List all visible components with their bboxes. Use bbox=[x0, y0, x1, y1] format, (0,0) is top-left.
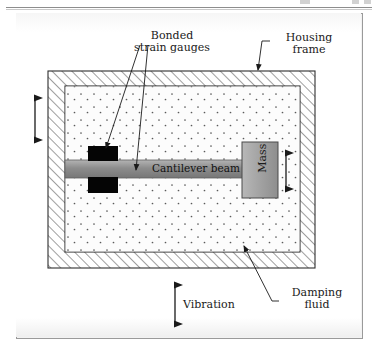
label-vibration: Vibration bbox=[183, 299, 235, 311]
strain-gauge-upper bbox=[88, 146, 118, 161]
label-mass: Mass bbox=[257, 141, 269, 175]
label-damping-fluid: Damping fluid bbox=[281, 287, 353, 312]
label-bonded-strain-gauges: Bonded strain gauges bbox=[120, 30, 224, 55]
strain-gauge-lower bbox=[88, 177, 118, 193]
leader-housing bbox=[258, 41, 270, 70]
label-housing-frame: Housing frame bbox=[272, 32, 346, 57]
label-cantilever-beam: Cantilever beam bbox=[152, 163, 240, 175]
figure-page: Bonded strain gauges Housing frame Dampi… bbox=[0, 0, 378, 352]
